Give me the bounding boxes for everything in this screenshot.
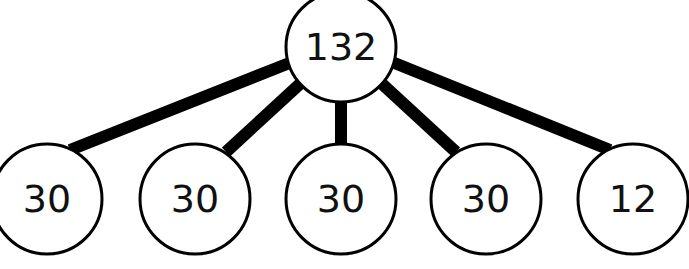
edge-root-child-5 <box>392 62 610 150</box>
child-node-label: 12 <box>609 177 657 221</box>
root-node: 132 <box>286 0 396 102</box>
edge-root-child-1 <box>70 62 292 150</box>
child-node-2: 30 <box>140 144 250 254</box>
child-node-label: 30 <box>23 177 71 221</box>
tree-diagram: 132 30 30 30 30 12 <box>0 0 689 269</box>
child-node-4: 30 <box>431 144 541 254</box>
child-node-3: 30 <box>286 144 396 254</box>
edge-root-child-2 <box>226 82 302 152</box>
root-node-label: 132 <box>305 25 378 69</box>
edge-root-child-4 <box>380 82 456 152</box>
child-node-label: 30 <box>171 177 219 221</box>
child-node-label: 30 <box>317 177 365 221</box>
child-node-1: 30 <box>0 144 102 254</box>
child-node-5: 12 <box>578 144 688 254</box>
child-node-label: 30 <box>462 177 510 221</box>
